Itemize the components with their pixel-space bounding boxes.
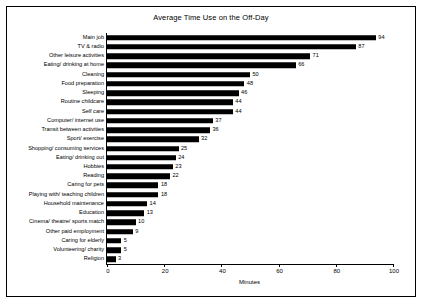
bar-value-label: 10 [138, 220, 144, 226]
bar [107, 257, 116, 263]
bar [107, 183, 158, 189]
bar [107, 173, 170, 179]
bar-value-label: 32 [201, 136, 207, 142]
bar-value-label: 3 [118, 257, 121, 263]
bar-category-label: Routine childcare [61, 100, 104, 106]
x-axis-tick: 20 [164, 264, 165, 267]
bar-category-label: Education [79, 210, 104, 216]
bar-value-label: 46 [241, 90, 247, 96]
bar [107, 192, 158, 198]
bar-value-label: 13 [147, 210, 153, 216]
bar-category-label: Food preparation [61, 81, 104, 87]
bar [107, 137, 199, 143]
bar-value-label: 44 [235, 100, 241, 106]
x-axis-tick-label: 60 [276, 268, 283, 274]
bar-category-label: Religion [84, 257, 104, 263]
x-axis-title: Minutes [106, 279, 393, 285]
x-axis-tick: 80 [336, 264, 337, 267]
x-axis-tick-label: 40 [219, 268, 226, 274]
x-axis-tick: 40 [221, 264, 222, 267]
x-axis-tick: 100 [393, 264, 394, 267]
bar-category-label: Shopping/ consuming services [28, 146, 104, 152]
bar [107, 63, 296, 69]
bar-value-label: 9 [135, 229, 138, 235]
bar-category-label: Sleeping [82, 90, 104, 96]
bar-value-label: 50 [253, 72, 259, 78]
bar-category-label: Household maintenance [44, 201, 104, 207]
bar-value-label: 22 [172, 173, 178, 179]
bar [107, 118, 213, 124]
bar-value-label: 14 [150, 201, 156, 207]
bar-category-label: Self care [82, 109, 104, 115]
bar [107, 220, 136, 226]
bar-value-label: 66 [298, 63, 304, 69]
x-axis-tick-label: 0 [106, 268, 109, 274]
bar-value-label: 18 [161, 183, 167, 189]
bar-value-label: 24 [178, 155, 184, 161]
bar-value-label: 44 [235, 109, 241, 115]
bar [107, 201, 147, 207]
bar-category-label: Sport/ exercise [67, 136, 104, 142]
bar-category-label: Cinema/ theatre/ sports match [29, 220, 104, 226]
bar [107, 229, 133, 235]
bar-category-label: Eating/ drinking out [56, 155, 104, 161]
bar-value-label: 23 [175, 164, 181, 170]
bar [107, 44, 356, 50]
bar-value-label: 18 [161, 192, 167, 198]
bar-value-label: 94 [378, 35, 384, 41]
bar [107, 164, 173, 170]
bar [107, 238, 121, 244]
bar-category-label: Reading [83, 173, 104, 179]
bar-value-label: 36 [212, 127, 218, 133]
bar-value-label: 25 [181, 146, 187, 152]
bar-category-label: Computer/ internet use [47, 118, 104, 124]
bar-category-label: Transit between activities [41, 127, 104, 133]
bar [107, 109, 233, 115]
bar-value-label: 5 [124, 238, 127, 244]
bar-category-label: Hobbies [83, 164, 104, 170]
bar-category-label: Caring for pets [67, 183, 104, 189]
bar-value-label: 71 [313, 53, 319, 59]
bar [107, 81, 244, 87]
chart-container: Average Time Use on the Off-Day Main job… [6, 6, 416, 297]
bar [107, 90, 239, 96]
bar [107, 53, 310, 59]
bar-value-label: 87 [358, 44, 364, 50]
bar-value-label: 48 [247, 81, 253, 87]
bar-value-label: 5 [124, 247, 127, 253]
bar [107, 146, 179, 152]
bar [107, 72, 250, 78]
bar [107, 210, 144, 216]
bar [107, 127, 210, 133]
bar-category-label: Main job [83, 35, 104, 41]
bar-category-label: Caring for elderly [61, 238, 104, 244]
bar [107, 247, 121, 253]
x-axis-tick: 0 [107, 264, 108, 267]
bar-category-label: Other leisure activities [49, 53, 104, 59]
bar [107, 100, 233, 106]
chart-title: Average Time Use on the Off-Day [7, 13, 415, 22]
plot-area: Main job94TV & radio87Other leisure acti… [106, 33, 393, 265]
bar [107, 155, 176, 161]
x-axis-tick-label: 100 [389, 268, 399, 274]
bar [107, 35, 376, 41]
x-axis-tick-label: 20 [162, 268, 169, 274]
x-axis-tick: 60 [279, 264, 280, 267]
bar-category-label: Cleaning [82, 72, 104, 78]
bar-value-label: 37 [215, 118, 221, 124]
x-axis-tick-label: 80 [333, 268, 340, 274]
bar-category-label: Playing with/ teaching children [29, 192, 104, 198]
bar-category-label: TV & radio [78, 44, 104, 50]
bar-category-label: Other paid employment [46, 229, 104, 235]
bar-row: Religion3 [107, 254, 393, 264]
bar-category-label: Eating/ drinking at home [44, 63, 104, 69]
bar-category-label: Volunteering/ charity [53, 247, 104, 253]
